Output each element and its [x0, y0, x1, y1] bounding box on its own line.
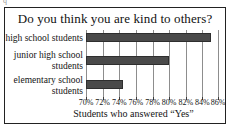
x-tick-label-86: 86% — [208, 98, 228, 108]
x-axis-title: Students who answered “Yes” — [0, 108, 231, 120]
category-axis-labels: high school students junior high school … — [0, 30, 83, 97]
chart-title: Do you think you are kind to others? — [5, 11, 225, 26]
page-artifact-glyph: q — [3, 0, 7, 5]
category-label-junior-high-school: junior high school students — [3, 50, 83, 71]
bar-junior-high-school-students — [86, 56, 169, 65]
figure-container: q Do you think you are kind to others? h… — [0, 0, 231, 127]
bar-high-school-students — [86, 33, 211, 42]
gridline-86 — [218, 30, 219, 97]
plot-area — [86, 30, 219, 97]
category-label-high-school: high school students — [3, 33, 83, 44]
bar-elementary-school-students — [86, 80, 123, 89]
category-label-elementary-school: elementary school students — [3, 75, 83, 96]
